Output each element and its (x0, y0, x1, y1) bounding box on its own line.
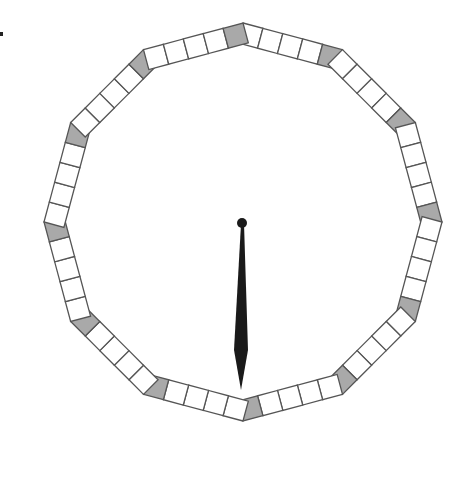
clock-dial (0, 0, 473, 479)
hand-pivot (237, 218, 247, 228)
clock-hand (234, 218, 248, 390)
hand-blade (234, 224, 248, 390)
hour-marker-square (223, 23, 248, 48)
